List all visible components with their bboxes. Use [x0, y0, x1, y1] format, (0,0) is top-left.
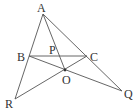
point-O-dot	[64, 69, 67, 72]
segment-RC	[15, 56, 87, 99]
label-P: P	[49, 43, 56, 57]
geometry-diagram: A B C P O R Q	[0, 0, 136, 111]
label-A: A	[37, 1, 46, 15]
label-O: O	[62, 73, 71, 87]
label-R: R	[5, 97, 13, 111]
label-C: C	[90, 50, 98, 64]
label-Q: Q	[124, 87, 133, 101]
label-B: B	[17, 50, 25, 64]
segment-AO	[43, 14, 65, 70]
segment-BQ	[29, 56, 122, 91]
